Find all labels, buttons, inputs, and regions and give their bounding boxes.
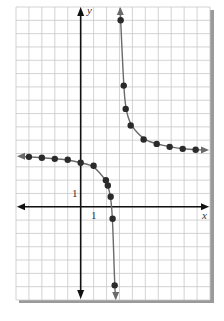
x-tick-label-1: 1 <box>91 210 97 221</box>
x-axis-label: x <box>202 210 207 221</box>
y-axis-label: y <box>87 5 92 16</box>
graph-figure <box>0 0 224 321</box>
y-tick-label-1: 1 <box>72 188 78 199</box>
